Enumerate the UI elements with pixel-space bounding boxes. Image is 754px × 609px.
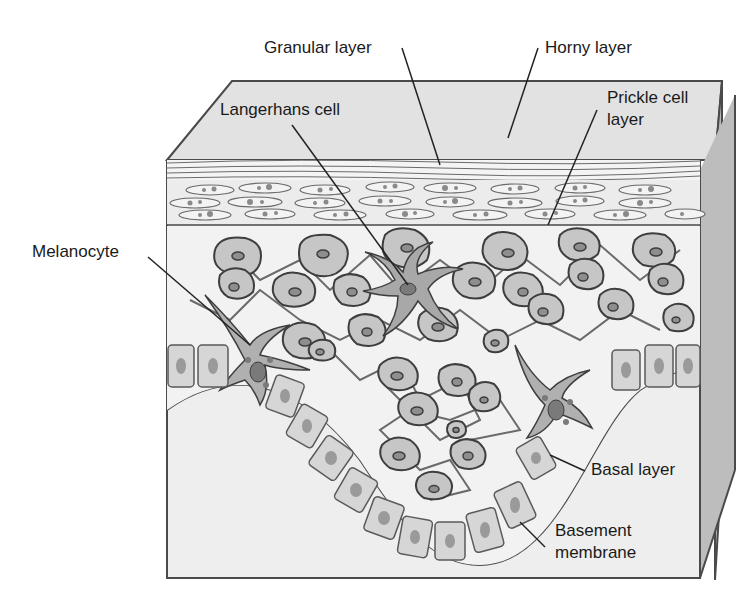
label-basement-line1: Basement [555, 521, 632, 541]
label-horny-layer: Horny layer [545, 38, 632, 58]
label-basal-layer: Basal layer [591, 460, 675, 480]
label-melanocyte: Melanocyte [32, 242, 119, 262]
granular-layer [167, 180, 705, 225]
epidermis-diagram: Granular layer Horny layer Langerhans ce… [0, 0, 754, 609]
label-basement-line2: membrane [555, 543, 636, 563]
label-granular-layer: Granular layer [264, 38, 372, 58]
label-prickle-cell-line1: Prickle cell [607, 88, 688, 108]
label-langerhans-cell: Langerhans cell [220, 100, 340, 120]
label-prickle-cell-line2: layer [607, 110, 644, 130]
